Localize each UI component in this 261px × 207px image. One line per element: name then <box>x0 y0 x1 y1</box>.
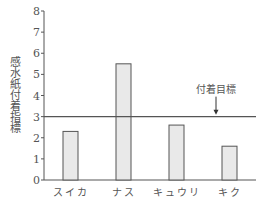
bar-3 <box>222 146 237 180</box>
bar-1 <box>116 64 131 180</box>
bar-chart: 012345678スイカナスキュウリキク付着目標 <box>0 0 261 207</box>
category-label: ナス <box>112 187 136 198</box>
y-tick-label: 5 <box>33 68 40 81</box>
reference-line-label: 付着目標 <box>196 83 236 95</box>
category-label: スイカ <box>53 187 89 198</box>
category-label: キュウリ <box>153 187 201 198</box>
y-tick-label: 1 <box>33 153 40 166</box>
y-tick-label: 6 <box>33 47 40 60</box>
bar-2 <box>169 125 184 180</box>
category-label: キク <box>218 187 242 198</box>
y-tick-label: 3 <box>33 111 40 124</box>
y-tick-label: 0 <box>33 174 40 187</box>
arrow-down-icon <box>214 110 219 115</box>
bar-0 <box>63 131 78 180</box>
y-tick-label: 4 <box>33 90 40 103</box>
y-tick-label: 8 <box>33 5 40 18</box>
y-tick-label: 7 <box>33 26 40 39</box>
y-tick-label: 2 <box>33 132 40 145</box>
